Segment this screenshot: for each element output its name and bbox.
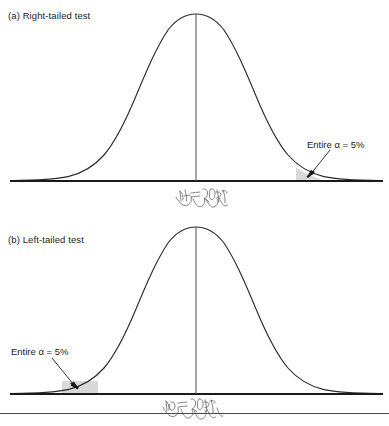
alpha-leader-line xyxy=(52,358,74,385)
alpha-label-right: Entire α = 5% xyxy=(307,139,365,150)
panel-title-b: (b) Left-tailed test xyxy=(8,234,84,245)
alpha-label-left: Entire α = 5% xyxy=(11,346,69,357)
panel-right-tailed-test: (a) Right-tailed test Entire α = 5% xyxy=(0,0,389,213)
figure-canvas: (a) Right-tailed test Entire α = 5% xyxy=(0,0,389,426)
handwritten-scribble-annotation xyxy=(176,189,228,207)
panel-title-a: (a) Right-tailed test xyxy=(8,10,90,21)
panel-left-tailed-test: (b) Left-tailed test Entire α = 5% xyxy=(0,213,389,426)
handwritten-scribble-annotation xyxy=(163,399,223,419)
bottom-divider-rule xyxy=(0,413,389,414)
right-tailed-curve-graphic xyxy=(0,0,389,213)
